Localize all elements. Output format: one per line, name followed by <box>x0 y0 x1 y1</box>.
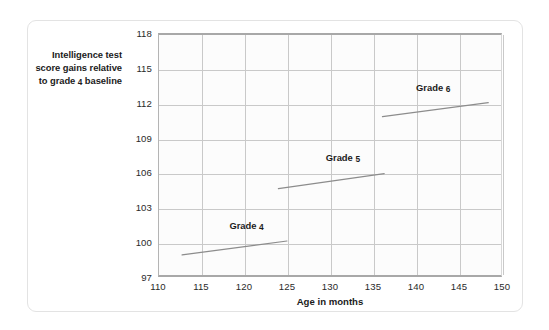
x-axis-tick-label: 140 <box>396 281 436 292</box>
gridline-vertical <box>503 35 504 275</box>
gridline-horizontal <box>159 70 501 71</box>
gridline-vertical <box>460 35 461 275</box>
x-axis-title: Age in months <box>158 296 502 307</box>
x-axis-tick-label: 135 <box>353 281 393 292</box>
gridline-vertical <box>374 35 375 275</box>
gridline-horizontal <box>159 140 501 141</box>
gridline-vertical <box>417 35 418 275</box>
y-axis-caption-line-3-text: to grade 4 baseline <box>39 75 122 86</box>
y-axis-caption-line-3: to grade 4 baseline <box>30 74 122 89</box>
y-axis-caption-line-1: Intelligence test <box>30 48 122 61</box>
x-axis-tick-label: 150 <box>482 281 522 292</box>
x-axis-tick-label: 110 <box>138 281 178 292</box>
x-axis-tick-label: 125 <box>267 281 307 292</box>
x-axis-tick-label: 120 <box>224 281 264 292</box>
x-axis-tick-label: 145 <box>439 281 479 292</box>
gridline-vertical <box>331 35 332 275</box>
figure-root: Intelligence test score gains relative t… <box>0 0 549 330</box>
gridlines <box>159 35 501 275</box>
y-axis-tick-label: 115 <box>118 62 152 73</box>
gridline-vertical <box>245 35 246 275</box>
plot-area <box>158 33 502 277</box>
y-axis-tick-label: 112 <box>118 97 152 108</box>
y-axis-caption: Intelligence test score gains relative t… <box>30 48 122 89</box>
y-axis-tick-labels: 97100103106109112115118 <box>114 33 152 277</box>
gridline-vertical <box>288 35 289 275</box>
gridline-horizontal <box>159 174 501 175</box>
gridline-vertical <box>202 35 203 275</box>
x-axis-tick-labels: 110115120125130135140145150 <box>158 281 502 295</box>
gridline-horizontal <box>159 244 501 245</box>
y-axis-tick-label: 109 <box>118 132 152 143</box>
x-axis-tick-label: 130 <box>310 281 350 292</box>
x-axis-tick-label: 115 <box>181 281 221 292</box>
y-axis-tick-label: 106 <box>118 167 152 178</box>
gridline-horizontal <box>159 105 501 106</box>
y-axis-caption-line-2: score gains relative <box>30 61 122 74</box>
y-axis-tick-label: 103 <box>118 202 152 213</box>
y-axis-tick-label: 100 <box>118 237 152 248</box>
y-axis-tick-label: 118 <box>118 28 152 39</box>
gridline-horizontal <box>159 209 501 210</box>
